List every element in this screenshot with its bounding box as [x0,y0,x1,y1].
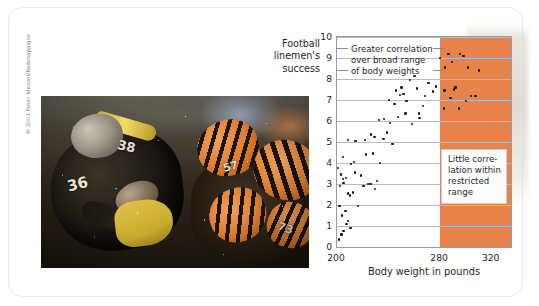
x-tick-320: 320 [482,252,500,263]
data-point [405,100,407,102]
annotation-greater-correlation: Greater correlation over broad range of … [351,44,433,78]
data-point [340,173,342,175]
data-point [374,188,376,190]
data-point [345,223,347,225]
data-point [416,87,418,89]
y-tick-3: 3 [314,178,332,189]
data-point [462,55,464,57]
gridline-y-2 [337,205,511,206]
gridline-y-5 [337,142,511,143]
data-point [341,214,343,216]
gridline-y-6 [337,121,511,122]
data-point [340,233,342,235]
data-point [389,122,391,124]
data-point [411,123,413,125]
y-tick-4: 4 [314,157,332,168]
data-point [369,183,371,185]
y-tick-7: 7 [314,94,332,105]
y-tick-6: 6 [314,115,332,126]
data-point [400,86,402,88]
data-point [383,118,385,120]
data-point [422,105,424,107]
x-tick-280: 280 [430,252,448,263]
data-point [342,230,344,232]
data-point [360,174,362,176]
y-axis-label: Football linemen's success [252,38,320,75]
data-point [391,143,393,145]
annotation-leader-left-1 [336,48,348,49]
data-point [338,238,340,240]
data-point [345,177,347,179]
data-point [382,138,384,140]
y-tick-2: 2 [314,199,332,210]
annotation-leader-right-1 [433,48,445,49]
data-point [342,156,344,158]
data-point [474,95,476,97]
y-axis-label-line-3: success [252,63,320,75]
gridline-y-8 [337,79,511,80]
photo-credit: © 2003 Peter Menzel/Redsnapaigns [25,0,31,134]
data-point [372,152,374,154]
data-point [376,180,378,182]
data-point [399,94,401,96]
data-point [342,178,344,180]
data-point [337,167,339,169]
data-point [373,136,375,138]
data-point [353,161,355,163]
data-point [402,93,404,95]
y-tick-9: 9 [314,52,332,63]
annotation-leader-right-2 [433,70,445,71]
data-point [338,205,340,207]
data-point [447,53,449,55]
data-point [386,131,388,133]
data-point [344,210,346,212]
annotation-leader-left-2 [336,70,348,71]
scatter-chart: Football linemen's success 012345678910 … [252,30,512,270]
data-point [354,140,356,142]
data-point [432,90,434,92]
y-tick-5: 5 [314,136,332,147]
page-root: 57 73 36 38 © 2003 Peter Menzel/Redsnapa… [0,0,539,306]
data-point [362,185,364,187]
data-point [418,112,420,114]
gridline-y-10 [337,37,511,38]
gridline-y-7 [337,100,511,101]
y-axis-ticks: 012345678910 [312,36,332,248]
data-point [349,227,351,229]
data-point [352,191,354,193]
data-point [478,69,480,71]
y-tick-10: 10 [314,31,332,42]
data-point [349,194,351,196]
data-point [395,89,397,91]
gridline-y-1 [337,226,511,227]
data-point [435,85,437,87]
data-point [409,79,411,81]
x-axis-label: Body weight in pounds [336,266,512,277]
data-point [424,95,426,97]
data-point [458,107,460,109]
data-point [449,97,451,99]
data-point [467,66,469,68]
data-point [350,163,352,165]
y-tick-8: 8 [314,73,332,84]
x-tick-200: 200 [327,252,345,263]
data-point [354,171,356,173]
y-tick-0: 0 [314,241,332,252]
y-axis-label-line-1: Football [252,38,320,50]
data-point [370,133,372,135]
data-point [339,185,341,187]
data-point [443,107,445,109]
data-point [443,89,445,91]
y-axis-label-line-2: linemen's [252,50,320,62]
data-point [364,139,366,141]
data-point [404,112,406,114]
plot-area: Greater correlation over broad range of … [336,36,512,248]
data-point [427,82,429,84]
data-point [418,117,420,119]
data-point [347,220,349,222]
data-point [397,116,399,118]
data-point [365,153,367,155]
data-point [393,103,395,105]
y-tick-1: 1 [314,220,332,231]
annotation-little-correlation: Little corre- lation within restricted r… [441,149,507,204]
